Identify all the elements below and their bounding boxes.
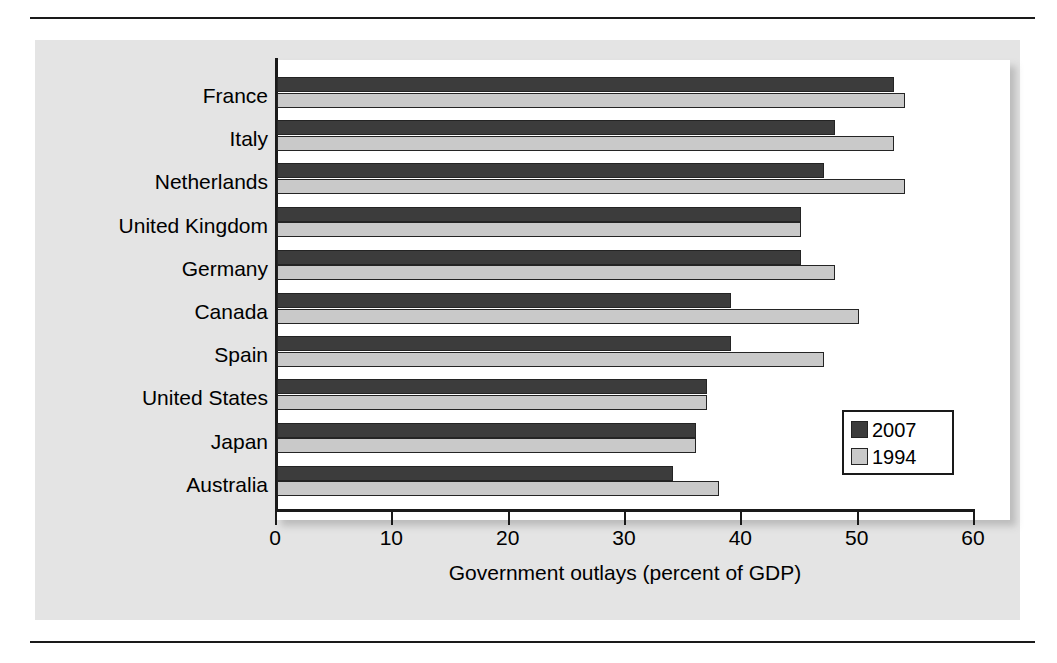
x-tick-mark — [624, 512, 626, 525]
category-label: Spain — [214, 344, 268, 365]
bar — [277, 438, 696, 453]
dark-swatch-icon — [851, 421, 868, 438]
category-label: Germany — [182, 258, 268, 279]
bar — [277, 379, 707, 394]
category-label: Japan — [211, 431, 268, 452]
bar — [277, 309, 859, 324]
x-tick-label: 40 — [710, 527, 770, 548]
legend-item-1994: 1994 — [851, 443, 952, 470]
bar — [277, 466, 673, 481]
bar — [277, 336, 731, 351]
x-tick-label: 20 — [478, 527, 538, 548]
x-axis-title: Government outlays (percent of GDP) — [275, 561, 975, 585]
chart-legend: 2007 1994 — [842, 410, 954, 475]
bar — [277, 136, 894, 151]
x-tick-mark — [857, 512, 859, 525]
bar — [277, 163, 824, 178]
y-axis-category-labels: FranceItalyNetherlandsUnited KingdomGerm… — [20, 40, 268, 510]
legend-label-1994: 1994 — [872, 447, 917, 467]
x-tick-label: 60 — [943, 527, 1003, 548]
category-label: Netherlands — [155, 171, 268, 192]
x-tick-label: 30 — [594, 527, 654, 548]
x-tick-mark — [508, 512, 510, 525]
bar — [277, 179, 905, 194]
x-tick-mark — [391, 512, 393, 525]
legend-label-2007: 2007 — [872, 420, 917, 440]
bar — [277, 120, 835, 135]
category-label: Italy — [229, 128, 268, 149]
category-label: United Kingdom — [119, 215, 268, 236]
category-label: France — [203, 85, 268, 106]
bar — [277, 352, 824, 367]
bar — [277, 395, 707, 410]
x-tick-label: 0 — [245, 527, 305, 548]
bar — [277, 250, 801, 265]
light-swatch-icon — [851, 448, 868, 465]
legend-item-2007: 2007 — [851, 416, 952, 443]
category-label: Canada — [194, 301, 268, 322]
x-tick-mark — [973, 512, 975, 525]
x-tick-mark — [740, 512, 742, 525]
bottom-divider-rule — [30, 641, 1035, 643]
top-divider-rule — [30, 17, 1035, 19]
bar — [277, 293, 731, 308]
bar — [277, 481, 719, 496]
bar — [277, 222, 801, 237]
bar — [277, 93, 905, 108]
category-label: United States — [142, 387, 268, 408]
x-tick-label: 50 — [827, 527, 887, 548]
bar — [277, 207, 801, 222]
x-tick-mark — [275, 512, 277, 525]
bar — [277, 423, 696, 438]
category-label: Australia — [186, 474, 268, 495]
x-tick-label: 10 — [361, 527, 421, 548]
bar — [277, 265, 835, 280]
bar — [277, 77, 894, 92]
